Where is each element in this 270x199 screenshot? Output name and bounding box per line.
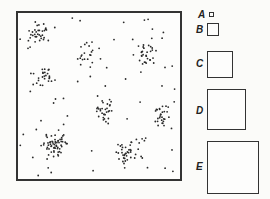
cluster-point [155, 110, 157, 112]
cluster-point [46, 158, 48, 160]
cluster-point [101, 108, 103, 110]
cluster-point [130, 141, 132, 143]
cluster-point [34, 29, 36, 31]
cluster-point [146, 51, 148, 53]
cluster-point [102, 102, 104, 104]
background-point [47, 167, 49, 169]
cluster-point [96, 110, 98, 112]
cluster-point [122, 154, 124, 156]
cluster-point [58, 129, 60, 131]
cluster-point [54, 79, 56, 81]
cluster-point [62, 135, 64, 137]
cluster-point [153, 62, 155, 64]
background-point [172, 170, 174, 172]
background-point [126, 118, 128, 120]
cluster-point [121, 152, 123, 154]
cluster-point [42, 72, 44, 74]
cluster-point [100, 110, 102, 112]
cluster-point [34, 33, 36, 35]
cluster-point [56, 145, 58, 147]
cluster-point [129, 144, 131, 146]
cluster-point [38, 77, 40, 79]
cluster-point [59, 139, 61, 141]
cluster-point [157, 118, 159, 120]
background-point [171, 149, 173, 151]
background-point [118, 158, 120, 160]
cluster-point [160, 114, 162, 116]
cluster-point [28, 40, 30, 42]
background-point [79, 20, 81, 22]
cluster-point [37, 33, 39, 35]
cluster-point [33, 73, 35, 75]
cluster-point [130, 157, 132, 159]
cluster-point [145, 55, 147, 57]
cluster-point [19, 38, 21, 40]
background-point [63, 98, 65, 100]
cluster-point [101, 100, 103, 102]
cluster-point [84, 44, 86, 46]
cluster-point [47, 73, 49, 75]
cluster-point [61, 138, 63, 140]
background-point [67, 115, 69, 117]
background-point [29, 91, 31, 93]
cluster-point [122, 161, 124, 163]
cluster-point [48, 148, 50, 150]
cluster-point [81, 54, 83, 56]
cluster-point [142, 54, 144, 56]
cluster-point [154, 121, 156, 123]
cluster-point [111, 110, 113, 112]
cluster-point [30, 73, 32, 75]
cluster-point [108, 118, 110, 120]
cluster-point [97, 106, 99, 108]
background-point [161, 85, 163, 87]
cluster-point [53, 151, 55, 153]
cluster-point [167, 106, 169, 108]
background-point [144, 19, 146, 21]
cluster-point [105, 121, 107, 123]
cluster-point [135, 154, 137, 156]
cluster-point [27, 47, 29, 49]
background-point [106, 67, 108, 69]
background-point [22, 134, 24, 136]
cluster-point [142, 46, 144, 48]
cluster-point [151, 49, 153, 51]
cluster-point [159, 115, 161, 117]
background-point [140, 71, 142, 73]
cluster-point [32, 35, 34, 37]
cluster-point [91, 51, 93, 53]
cluster-point [166, 111, 168, 113]
window-label-b: B [196, 25, 203, 35]
cluster-point [47, 147, 49, 149]
background-point [50, 172, 52, 174]
cluster-point [50, 151, 52, 153]
cluster-point [60, 144, 62, 146]
cluster-point [44, 68, 46, 70]
cluster-point [77, 58, 79, 60]
cluster-point [101, 112, 103, 114]
cluster-point [42, 34, 44, 36]
cluster-point [99, 108, 101, 110]
cluster-point [43, 142, 45, 144]
cluster-point [124, 160, 126, 162]
cluster-point [134, 157, 136, 159]
cluster-point [44, 30, 46, 32]
cluster-point [98, 47, 100, 49]
background-point [103, 119, 105, 121]
cluster-point [80, 64, 82, 66]
cluster-point [123, 157, 125, 159]
cluster-point [163, 121, 165, 123]
cluster-point [162, 111, 164, 113]
cluster-point [138, 142, 140, 144]
background-point [71, 17, 73, 19]
cluster-point [40, 35, 42, 37]
cluster-point [128, 149, 130, 151]
background-point [91, 150, 93, 152]
cluster-point [47, 40, 49, 42]
cluster-point [48, 78, 50, 80]
cluster-point [35, 31, 37, 33]
window-d [207, 89, 246, 130]
window-label-a: A [198, 10, 205, 20]
cluster-point [45, 75, 47, 77]
cluster-point [157, 125, 159, 127]
background-point [98, 116, 100, 118]
